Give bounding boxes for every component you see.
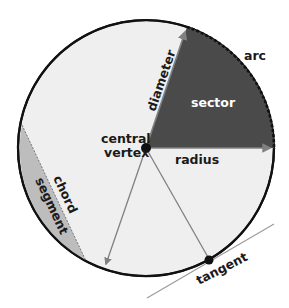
central-vertex-label-line1: central bbox=[101, 131, 151, 146]
circle-parts-diagram: arc sector diameter central vertex radiu… bbox=[0, 0, 289, 308]
central-vertex-label-line2: vertex bbox=[104, 145, 149, 160]
radius-label: radius bbox=[175, 152, 219, 167]
tangent-point bbox=[205, 256, 214, 265]
arc-label: arc bbox=[244, 48, 266, 63]
sector-label: sector bbox=[191, 95, 236, 110]
